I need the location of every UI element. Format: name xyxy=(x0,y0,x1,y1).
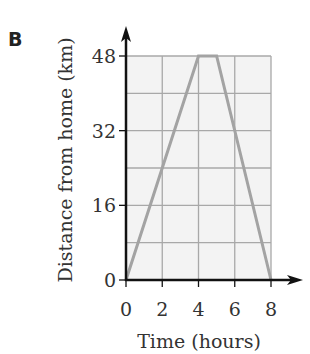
x-tick-label: 2 xyxy=(156,298,168,320)
y-tick-labels: 0163248 xyxy=(92,45,116,291)
x-tick-label: 4 xyxy=(192,298,204,320)
x-tick-label: 0 xyxy=(120,298,132,320)
x-tick-labels: 02468 xyxy=(120,298,277,320)
x-tick-label: 6 xyxy=(229,298,241,320)
y-axis-title: Distance from home (km) xyxy=(54,37,76,282)
y-tick-label: 16 xyxy=(92,194,116,216)
y-tick-label: 48 xyxy=(92,45,116,67)
x-axis-title: Time (hours) xyxy=(137,330,261,352)
y-tick-label: 0 xyxy=(104,269,116,291)
distance-time-chart: 02468 0163248 Time (hours) Distance from… xyxy=(0,0,310,354)
x-tick-label: 8 xyxy=(265,298,277,320)
y-tick-label: 32 xyxy=(92,120,116,142)
